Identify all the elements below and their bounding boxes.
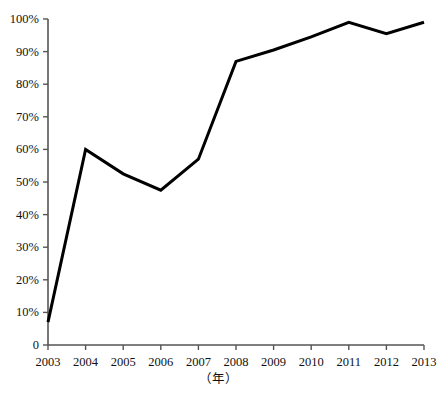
x-axis-tick-label: 2013 bbox=[412, 356, 437, 369]
y-axis-tick-label: 30% bbox=[0, 241, 39, 254]
x-axis-caption: （年） bbox=[199, 373, 238, 386]
y-axis-tick-label: 0 bbox=[0, 339, 39, 352]
y-axis-tick-label: 100% bbox=[0, 13, 39, 26]
x-axis-tick-label: 2008 bbox=[224, 356, 249, 369]
x-axis-tick-label: 2010 bbox=[299, 356, 324, 369]
x-axis-tick-label: 2011 bbox=[337, 356, 362, 369]
x-axis-tick-label: 2006 bbox=[148, 356, 173, 369]
x-axis-tick-label: 2005 bbox=[111, 356, 136, 369]
y-axis-tick-label: 10% bbox=[0, 306, 39, 319]
x-axis-tick-label: 2003 bbox=[36, 356, 61, 369]
x-axis-tick-label: 2004 bbox=[73, 356, 98, 369]
y-axis-tick-label: 50% bbox=[0, 176, 39, 189]
y-axis-tick-label: 60% bbox=[0, 143, 39, 156]
x-axis-tick-label: 2009 bbox=[261, 356, 286, 369]
axis-lines bbox=[48, 19, 424, 345]
y-axis-tick-label: 80% bbox=[0, 78, 39, 91]
x-axis-tick-label: 2012 bbox=[374, 356, 399, 369]
y-axis-tick-label: 20% bbox=[0, 274, 39, 287]
y-axis-tick-label: 40% bbox=[0, 208, 39, 221]
y-axis-tick-label: 90% bbox=[0, 45, 39, 58]
data-series-line bbox=[48, 22, 424, 322]
y-axis-tick-label: 70% bbox=[0, 111, 39, 124]
x-axis-tick-label: 2007 bbox=[186, 356, 211, 369]
